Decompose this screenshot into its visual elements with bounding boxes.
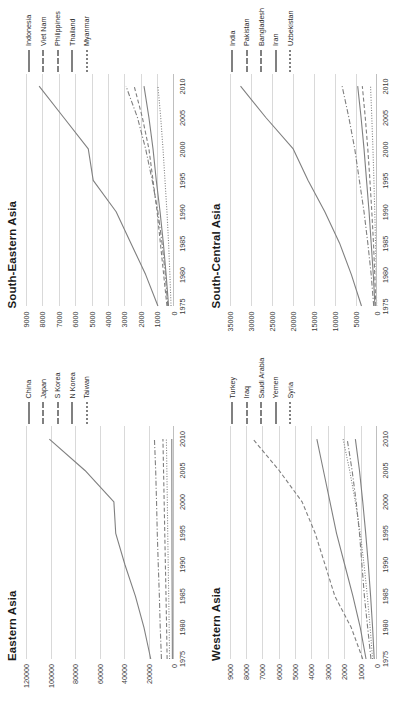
legend-item[interactable]: Saudi Arabia <box>257 357 266 425</box>
y-axis-tick-label: 7000 <box>258 664 267 680</box>
x-axis-tick-label: 2000 <box>178 494 187 510</box>
x-axis-tick-label: 2010 <box>178 79 187 95</box>
legend-item[interactable]: Japan <box>39 357 48 425</box>
plot-area: 0500010000150002000025000300003500019751… <box>230 74 378 307</box>
x-axis-tick-label: 1990 <box>381 204 390 220</box>
y-axis-tick-label: 1000 <box>356 664 365 680</box>
legend: IndiaPakistanBangladeshIranUzbekistan <box>228 4 295 72</box>
series-line <box>134 87 167 307</box>
legend-item[interactable]: N Korea <box>68 357 77 425</box>
series-line <box>126 87 168 307</box>
x-axis-tick-label: 1990 <box>178 204 187 220</box>
legend-item[interactable]: S Korea <box>53 357 62 425</box>
legend-label: Saudi Arabia <box>257 358 266 399</box>
legend-swatch <box>246 403 248 425</box>
legend-item[interactable]: Thailand <box>68 4 77 72</box>
x-axis-tick-label: 2000 <box>381 141 390 157</box>
legend-item[interactable]: Taiwan <box>82 357 91 425</box>
y-axis-tick-label: 10000 <box>330 312 339 332</box>
legend-item[interactable]: Myanmar <box>82 4 91 72</box>
legend-label: Philippines <box>53 11 62 46</box>
y-axis-tick-label: 3000 <box>120 312 129 328</box>
x-axis-tick-label: 1975 <box>381 299 390 315</box>
series-line <box>343 439 373 659</box>
legend-swatch <box>289 403 291 425</box>
legend-label: Bangladesh <box>257 8 266 46</box>
x-axis-tick-label: 1980 <box>178 267 187 283</box>
x-axis-tick-label: 2010 <box>381 431 390 447</box>
legend-item[interactable]: China <box>24 357 33 425</box>
legend-swatch <box>42 50 44 72</box>
y-axis-tick-label: 8000 <box>38 312 47 328</box>
legend-item[interactable]: Philippines <box>53 4 62 72</box>
x-axis-tick-label: 1980 <box>381 620 390 636</box>
legend-swatch <box>57 50 59 72</box>
legend-swatch <box>42 403 44 425</box>
x-axis-tick-label: 2000 <box>381 494 390 510</box>
panel-title: South-Eastern Asia <box>6 201 18 308</box>
legend-item[interactable]: Yemen <box>271 357 280 425</box>
legend-label: Iraq <box>242 386 251 398</box>
legend-label: Viet Nam <box>39 17 48 46</box>
panel-western-asia: Western Asia 010002000300040005000600070… <box>204 353 407 705</box>
legend-item[interactable]: Iraq <box>242 357 251 425</box>
figure-canvas: Eastern Asia 020000400006000080000100000… <box>0 0 407 705</box>
legend-item[interactable]: Bangladesh <box>257 4 266 72</box>
legend-label: Iran <box>271 34 280 46</box>
x-axis-tick-label: 1975 <box>381 651 390 667</box>
legend-swatch <box>246 50 248 72</box>
legend-swatch <box>275 403 277 425</box>
x-axis-tick-label: 2000 <box>178 141 187 157</box>
y-axis-tick-label: 120000 <box>22 664 31 688</box>
legend-item[interactable]: Indonesia <box>24 4 33 72</box>
y-axis-tick-label: 60000 <box>95 664 104 684</box>
legend-swatch <box>231 403 233 425</box>
legend-label: Taiwan <box>82 376 91 398</box>
legend: IndonesiaViet NamPhilippinesThailandMyan… <box>24 4 91 72</box>
series-lines <box>230 74 378 307</box>
y-axis-tick-label: 5000 <box>351 312 360 328</box>
legend-item[interactable]: Turkey <box>228 357 237 425</box>
x-axis-tick-label: 1975 <box>178 299 187 315</box>
series-line <box>158 87 171 307</box>
legend-item[interactable]: Viet Nam <box>39 4 48 72</box>
y-axis-tick-label: 7000 <box>54 312 63 328</box>
x-axis-tick-label: 1985 <box>381 236 390 252</box>
panel-south-central-asia: South-Central Asia 050001000015000200002… <box>204 0 407 353</box>
y-axis-tick-label: 4000 <box>103 312 112 328</box>
x-axis-tick-label: 1985 <box>178 236 187 252</box>
plot-area: 0100020003000400050006000700080009000197… <box>26 74 174 307</box>
legend-item[interactable]: Uzbekistan <box>286 4 295 72</box>
x-axis-tick-label: 2010 <box>381 79 390 95</box>
legend-item[interactable]: Syria <box>286 357 295 425</box>
y-axis-tick-label: 30000 <box>246 312 255 332</box>
legend-label: India <box>228 30 237 46</box>
x-axis-line <box>376 74 377 307</box>
legend-label: Syria <box>286 382 295 398</box>
legend-item[interactable]: Pakistan <box>242 4 251 72</box>
y-axis-tick-label: 4000 <box>307 664 316 680</box>
y-axis-tick-label: 5000 <box>87 312 96 328</box>
legend-label: S Korea <box>53 373 62 399</box>
panel-title: South-Central Asia <box>210 204 222 309</box>
series-line <box>252 439 362 659</box>
plot-area: 0200004000060000800001000001200001975198… <box>26 427 174 660</box>
panel-south-eastern-asia: South-Eastern Asia 010002000300040005000… <box>0 0 204 353</box>
legend-item[interactable]: Iran <box>271 4 280 72</box>
series-line <box>154 439 161 659</box>
x-axis-tick-label: 1995 <box>178 173 187 189</box>
legend-swatch <box>260 50 262 72</box>
x-axis-tick-label: 1985 <box>381 588 390 604</box>
y-axis-tick-label: 2000 <box>136 312 145 328</box>
legend-item[interactable]: India <box>228 4 237 72</box>
y-axis-tick-label: 1000 <box>153 312 162 328</box>
y-axis-tick-label: 9000 <box>225 664 234 680</box>
plot-area: 0100020003000400050006000700080009000197… <box>230 427 378 660</box>
x-axis-line <box>173 74 174 307</box>
legend-swatch <box>28 50 30 72</box>
panel-title: Eastern Asia <box>6 591 18 661</box>
y-axis-tick-label: 6000 <box>274 664 283 680</box>
x-axis-tick-label: 1980 <box>178 620 187 636</box>
y-axis-tick-label: 40000 <box>120 664 129 684</box>
legend-label: China <box>24 380 33 399</box>
